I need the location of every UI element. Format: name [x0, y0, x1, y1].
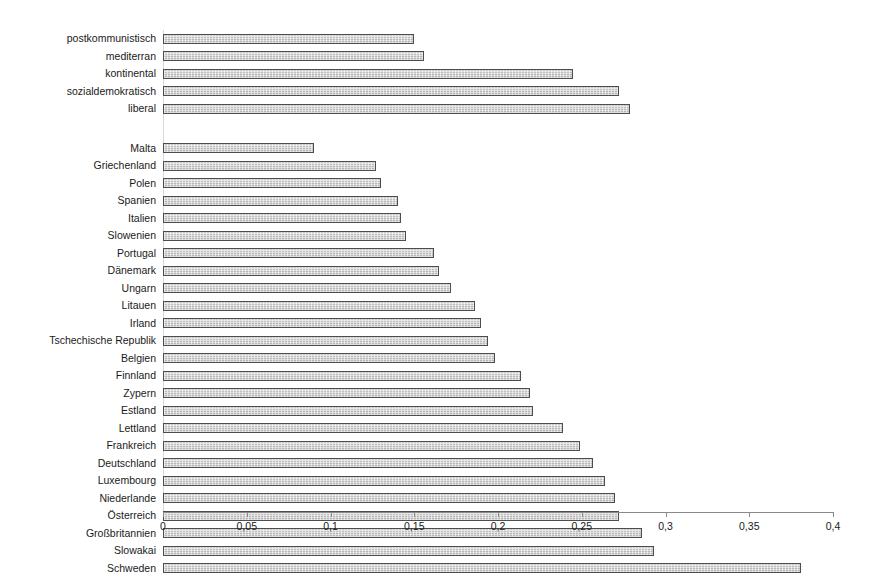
bar-wrapper: [163, 34, 414, 44]
bar-category-label: Spanien: [0, 192, 162, 210]
x-axis-tick: [247, 512, 248, 517]
x-axis-tick-label: 0,1: [323, 520, 338, 532]
bar-row: Slowakai: [0, 542, 884, 560]
bar-row: Litauen: [0, 297, 884, 315]
bar-wrapper: [163, 178, 381, 188]
bar: [163, 546, 654, 556]
bar-category-label: Estland: [0, 402, 162, 420]
bar-row: Zypern: [0, 385, 884, 403]
bar-wrapper: [163, 371, 521, 381]
bar-row: Italien: [0, 210, 884, 228]
bar-row: mediterran: [0, 48, 884, 66]
bar-category-label: Italien: [0, 210, 162, 228]
bar: [163, 406, 533, 416]
bar-row: Belgien: [0, 350, 884, 368]
x-axis-tick-label: 0,3: [658, 520, 673, 532]
bar-category-label: Polen: [0, 175, 162, 193]
bar-category-label: Tschechische Republik: [0, 332, 162, 350]
bar: [163, 528, 642, 538]
bar-category-label: Litauen: [0, 297, 162, 315]
x-axis-tick: [163, 512, 164, 517]
bar-row: Irland: [0, 315, 884, 333]
bar-wrapper: [163, 441, 580, 451]
bar-category-label: postkommunistisch: [0, 30, 162, 48]
bar-row: Portugal: [0, 245, 884, 263]
bar: [163, 51, 424, 61]
x-axis-tick-label: 0,35: [739, 520, 759, 532]
bar-category-label: Lettland: [0, 420, 162, 438]
bar: [163, 86, 619, 96]
bar-row: Lettland: [0, 420, 884, 438]
bar-category-label: Griechenland: [0, 157, 162, 175]
bar-wrapper: [163, 69, 573, 79]
bar: [163, 231, 406, 241]
bar-wrapper: [163, 406, 533, 416]
bar-category-label: liberal: [0, 100, 162, 118]
bar-row: Slowenien: [0, 227, 884, 245]
bar-category-label: Ungarn: [0, 280, 162, 298]
x-axis-tick: [331, 512, 332, 517]
bar-wrapper: [163, 86, 619, 96]
bar: [163, 34, 414, 44]
bar-category-label: Deutschland: [0, 455, 162, 473]
bar-row: postkommunistisch: [0, 30, 884, 48]
bar: [163, 161, 376, 171]
bar-row: Luxembourg: [0, 472, 884, 490]
bar-wrapper: [163, 476, 605, 486]
bar-category-label: Finnland: [0, 367, 162, 385]
bar-wrapper: [163, 213, 401, 223]
bar-wrapper: [163, 353, 495, 363]
bar-category-label: Belgien: [0, 350, 162, 368]
bar: [163, 143, 314, 153]
bar-wrapper: [163, 388, 530, 398]
bar-row: kontinental: [0, 65, 884, 83]
x-axis-tick-label: 0,2: [491, 520, 506, 532]
bar-wrapper: [163, 318, 481, 328]
chart-page: postkommunistischmediterrankontinentalso…: [0, 0, 884, 573]
bar: [163, 458, 593, 468]
bar-row: Polen: [0, 175, 884, 193]
bar-category-label: Schweden: [0, 560, 162, 573]
horizontal-bar-chart: postkommunistischmediterrankontinentalso…: [0, 0, 884, 573]
x-axis-tick: [498, 512, 499, 517]
bar-category-label: kontinental: [0, 65, 162, 83]
bar-row: Dänemark: [0, 262, 884, 280]
bar: [163, 196, 398, 206]
bar-wrapper: [163, 528, 642, 538]
bar-row: Malta: [0, 140, 884, 158]
bar-category-label: Irland: [0, 315, 162, 333]
bar: [163, 301, 475, 311]
x-axis-tick: [582, 512, 583, 517]
bar-wrapper: [163, 51, 424, 61]
bar-row: Spanien: [0, 192, 884, 210]
x-axis-tick: [414, 512, 415, 517]
bar-category-label: Malta: [0, 140, 162, 158]
bar: [163, 563, 801, 573]
bar: [163, 104, 630, 114]
x-axis-tick: [666, 512, 667, 517]
bar-row: Niederlande: [0, 490, 884, 508]
bar: [163, 388, 530, 398]
x-axis-tick-label: 0,25: [572, 520, 592, 532]
bar: [163, 476, 605, 486]
bar: [163, 423, 563, 433]
bar-category-label: Großbritannien: [0, 525, 162, 543]
bar-wrapper: [163, 143, 314, 153]
bar: [163, 371, 521, 381]
x-axis-tick-label: 0,4: [826, 520, 841, 532]
bar-wrapper: [163, 336, 488, 346]
bar-row: Deutschland: [0, 455, 884, 473]
bar: [163, 493, 615, 503]
bar: [163, 441, 580, 451]
x-axis-tick: [833, 512, 834, 517]
bar: [163, 266, 439, 276]
bar: [163, 318, 481, 328]
bar-wrapper: [163, 458, 593, 468]
bar: [163, 248, 434, 258]
bar: [163, 283, 451, 293]
bar: [163, 69, 573, 79]
bar-category-label: Portugal: [0, 245, 162, 263]
bar-wrapper: [163, 301, 475, 311]
bar-row: Estland: [0, 402, 884, 420]
bar-category-label: sozialdemokratisch: [0, 83, 162, 101]
